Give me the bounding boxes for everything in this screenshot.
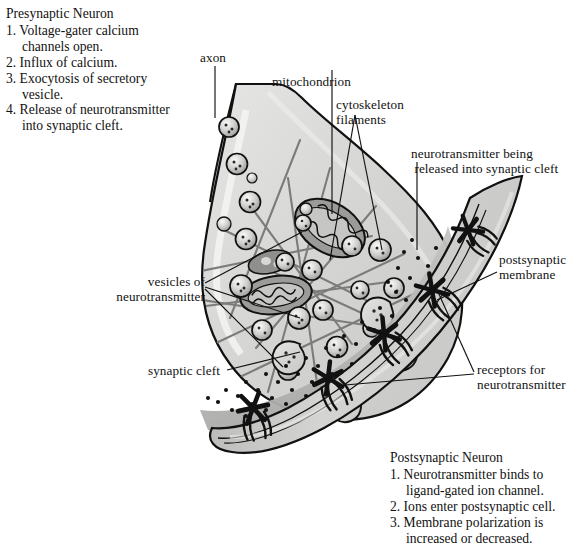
label-vesicles-of-neurotransmitter: vesicles of neurotransmitter xyxy=(55,274,205,305)
label-neurotransmitter-release: neurotransmitter being released into syn… xyxy=(411,146,558,177)
presynaptic-step-3: 3. Exocytosis of secretory vesicle. xyxy=(6,71,216,103)
presynaptic-step-2: 2. Influx of calcium. xyxy=(6,55,216,71)
presynaptic-step-4: 4. Release of neurotransmitter into syna… xyxy=(6,102,216,134)
postsynaptic-step-1: 1. Neurotransmitter binds to ligand-gate… xyxy=(390,467,585,499)
presynaptic-neuron-steps: Presynaptic Neuron 1. Voltage-gater calc… xyxy=(6,6,216,134)
label-cytoskeleton-filaments: cytoskeleton filaments xyxy=(336,97,404,128)
label-mitochondrion: mitochondrion xyxy=(272,74,351,89)
postsynaptic-neuron-steps: Postsynaptic Neuron 1. Neurotransmitter … xyxy=(390,450,585,546)
presynaptic-neuron-title: Presynaptic Neuron xyxy=(6,6,216,22)
presynaptic-step-1: 1. Voltage-gater calcium channels open. xyxy=(6,23,216,55)
postsynaptic-step-2: 2. Ions enter postsynaptic cell. xyxy=(390,499,585,515)
label-postsynaptic-membrane: postsynaptic membrane xyxy=(499,252,566,283)
postsynaptic-step-3: 3. Membrane polarization is increased or… xyxy=(390,515,585,547)
label-synaptic-cleft: synaptic cleft xyxy=(80,363,220,378)
postsynaptic-neuron-title: Postsynaptic Neuron xyxy=(390,450,585,466)
label-axon: axon xyxy=(200,50,226,65)
figure-canvas: Presynaptic Neuron 1. Voltage-gater calc… xyxy=(0,0,585,560)
label-receptors-for-neurotransmitter: receptors for neurotransmitter xyxy=(477,362,566,393)
